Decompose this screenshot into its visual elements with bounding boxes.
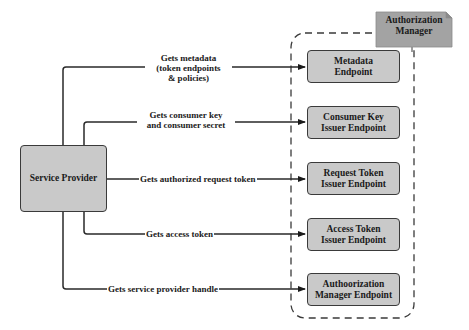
edge-label-access-token: Gets access token [145,229,214,239]
service-provider-node: Service Provider [20,145,107,212]
edge-label-line: Gets service provider handle [108,284,218,294]
edge-label-line: & policies) [146,73,231,83]
request-token-issuer-endpoint-node: Request Token Issuer Endpoint [307,162,400,195]
edge-label-line: (token endpoints [146,63,231,73]
endpoint-label: Issuer Endpoint [321,123,386,134]
endpoint-label: Endpoint [334,67,373,78]
edge-label-service-provider-handle: Gets service provider handle [107,284,219,294]
authorization-manager-label: Authorization Manager [376,15,452,37]
endpoint-label: Authoorization [315,279,392,290]
edge-service-provider-handle [63,212,305,289]
edge-label-consumer-key: Gets consumer key and consumer secret [137,110,235,130]
edge-label-line: Gets consumer key [138,110,234,120]
edge-label-line: Gets authorized request token [140,174,256,184]
endpoint-label: Access Token [321,224,386,235]
edge-label-line: Gets access token [146,229,213,239]
edge-label-request-token: Gets authorized request token [139,174,257,184]
service-provider-label: Service Provider [30,173,98,184]
edge-label-line: and consumer secret [138,120,234,130]
consumer-key-issuer-endpoint-node: Consumer Key Issuer Endpoint [307,106,400,139]
edge-label-line: Gets metadata [146,53,231,63]
manager-label-line1: Authorization [376,15,452,26]
edge-label-metadata: Gets metadata (token endpoints & policie… [145,53,232,83]
endpoint-label: Issuer Endpoint [321,235,386,246]
access-token-issuer-endpoint-node: Access Token Issuer Endpoint [307,218,400,251]
metadata-endpoint-node: Metadata Endpoint [307,50,400,83]
manager-label-line2: Manager [376,26,452,37]
authorization-manager-endpoint-node: Authoorization Manager Endpoint [307,273,400,306]
endpoint-label: Consumer Key [321,112,386,123]
endpoint-label: Metadata [334,56,373,67]
endpoint-label: Manager Endpoint [315,290,392,301]
endpoint-label: Issuer Endpoint [321,179,386,190]
endpoint-label: Request Token [321,168,386,179]
